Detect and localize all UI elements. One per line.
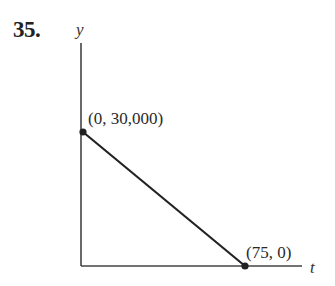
data-point-y-intercept	[79, 128, 86, 135]
x-axis-label: t	[310, 258, 316, 277]
y-axis-label: y	[74, 20, 84, 39]
point-label-x-intercept: (75, 0)	[246, 243, 291, 262]
data-point-x-intercept	[241, 262, 248, 269]
line-chart: y t (0, 30,000) (75, 0)	[0, 0, 335, 286]
point-label-y-intercept: (0, 30,000)	[88, 109, 163, 128]
data-line	[83, 132, 245, 266]
